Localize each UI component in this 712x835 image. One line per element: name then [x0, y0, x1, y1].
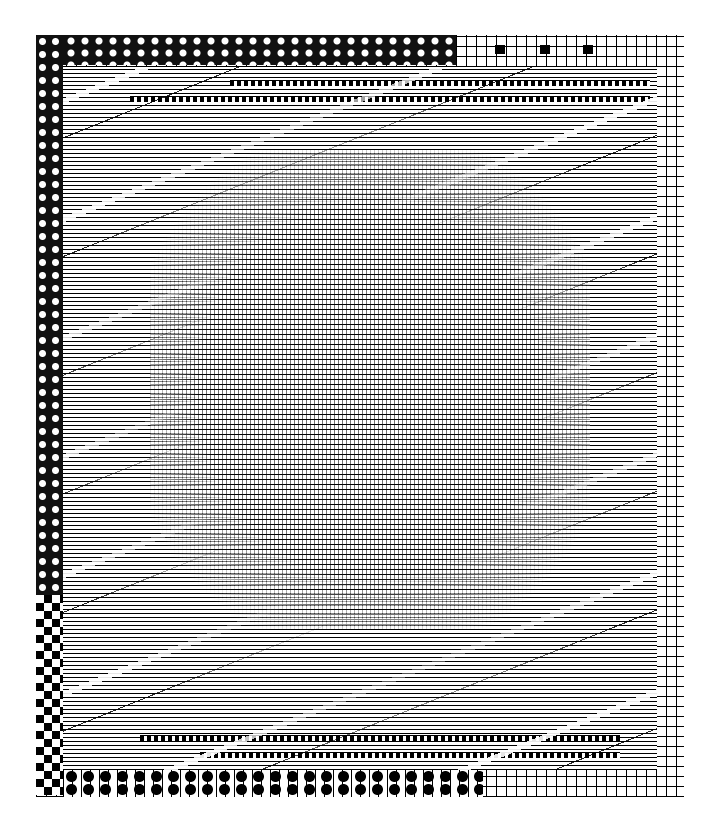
- dotted-left-border: [36, 35, 63, 595]
- diagonal-streaks: [63, 67, 657, 770]
- square-dot-mark: [540, 45, 550, 54]
- dotted-bottom-border: [63, 770, 483, 797]
- checker-left-border: [36, 595, 63, 795]
- dotted-top-border: [36, 35, 456, 65]
- square-dot-mark: [495, 45, 505, 54]
- square-dot-mark: [583, 45, 593, 54]
